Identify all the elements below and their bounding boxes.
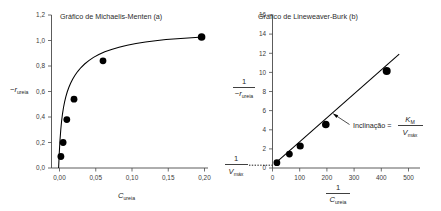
data-point — [63, 116, 70, 123]
svg-text:1: 1 — [336, 183, 340, 192]
arrow-head — [333, 113, 338, 118]
chart-title-a: Gráfico de Michaelis-Menten (a) — [60, 12, 162, 21]
svg-text:200: 200 — [322, 174, 333, 181]
y-ticks-a — [48, 15, 52, 168]
svg-text:Cureia: Cureia — [118, 191, 135, 201]
svg-text:0,4: 0,4 — [36, 113, 45, 120]
data-point — [274, 159, 281, 166]
svg-text:2: 2 — [262, 145, 266, 152]
data-point — [297, 142, 304, 149]
x-tick-labels-a: 0,00 0,05 0,10 0,15 0,20 — [53, 174, 211, 181]
data-point — [58, 153, 65, 160]
slope-annotation: Inclinação = KM Vmáx — [333, 113, 423, 138]
svg-text:300: 300 — [349, 174, 360, 181]
svg-text:0,15: 0,15 — [162, 174, 175, 181]
svg-text:0,20: 0,20 — [198, 174, 211, 181]
svg-text:1: 1 — [234, 154, 238, 163]
y-ticks-b — [269, 15, 273, 168]
y-tick-labels-b: 0 2 4 6 8 10 12 14 16 — [259, 11, 267, 171]
x-ticks-a — [60, 168, 205, 172]
svg-text:Vmáx: Vmáx — [229, 167, 244, 177]
lineweaver-burk-svg: Gráfico de Lineweaver-Burk (b) 0 2 4 — [220, 0, 441, 211]
y-axis-label-b: 1 −rureia — [233, 77, 255, 99]
y-axis-label-a: −rureia — [10, 85, 29, 95]
svg-text:0,0: 0,0 — [36, 164, 45, 171]
x-axis-label-b: 1 Cureia — [326, 183, 350, 205]
svg-text:0,05: 0,05 — [90, 174, 103, 181]
data-point — [286, 151, 293, 158]
x-ticks-b — [273, 168, 409, 172]
chart-panel-lineweaver-burk: Gráfico de Lineweaver-Burk (b) 0 2 4 — [220, 0, 441, 211]
data-point — [322, 121, 330, 129]
intercept-annotation: 1 Vmáx — [225, 154, 248, 177]
figure-container: Gráfico de Michaelis-Menten (a) 0,0 0,2 … — [0, 0, 441, 211]
x-tick-labels-b: 0 100 200 300 400 500 — [271, 174, 415, 181]
svg-text:100: 100 — [294, 174, 305, 181]
svg-text:0,6: 0,6 — [36, 88, 45, 95]
x-axis-label-a: Cureia — [118, 191, 135, 201]
svg-text:Inclinação =: Inclinação = — [353, 121, 392, 130]
y-tick-labels-a: 0,0 0,2 0,4 0,6 0,8 1,0 1,2 — [36, 11, 45, 171]
svg-text:16: 16 — [259, 11, 267, 18]
svg-text:1: 1 — [242, 77, 246, 86]
svg-text:6: 6 — [262, 107, 266, 114]
svg-text:Cureia: Cureia — [329, 195, 346, 205]
svg-text:Vmáx: Vmáx — [403, 128, 418, 138]
svg-text:0,10: 0,10 — [126, 174, 139, 181]
data-point — [383, 67, 391, 75]
data-point — [100, 57, 107, 64]
svg-text:0,00: 0,00 — [53, 174, 66, 181]
svg-text:500: 500 — [403, 174, 414, 181]
svg-text:10: 10 — [259, 69, 267, 76]
data-points-a — [58, 33, 206, 160]
chart-panel-michaelis-menten: Gráfico de Michaelis-Menten (a) 0,0 0,2 … — [0, 0, 220, 211]
data-point — [198, 33, 206, 41]
data-point — [71, 96, 78, 103]
svg-text:8: 8 — [262, 88, 266, 95]
svg-text:14: 14 — [259, 30, 267, 37]
svg-text:KM: KM — [405, 115, 414, 125]
data-point — [60, 139, 67, 146]
michaelis-menten-curve — [59, 37, 204, 168]
svg-text:−rureia: −rureia — [235, 89, 254, 99]
chart-title-b: Gráfico de Lineweaver-Burk (b) — [258, 12, 358, 21]
svg-text:1,0: 1,0 — [36, 37, 45, 44]
svg-text:1,2: 1,2 — [36, 11, 45, 18]
michaelis-menten-svg: Gráfico de Michaelis-Menten (a) 0,0 0,2 … — [0, 0, 220, 211]
svg-text:0,2: 0,2 — [36, 139, 45, 146]
svg-text:0: 0 — [271, 174, 275, 181]
svg-text:−rureia: −rureia — [10, 85, 29, 95]
svg-text:12: 12 — [259, 50, 267, 57]
svg-text:4: 4 — [262, 126, 266, 133]
svg-text:400: 400 — [376, 174, 387, 181]
svg-text:0,8: 0,8 — [36, 62, 45, 69]
regression-line-b — [276, 54, 399, 162]
data-points-b — [274, 67, 391, 166]
